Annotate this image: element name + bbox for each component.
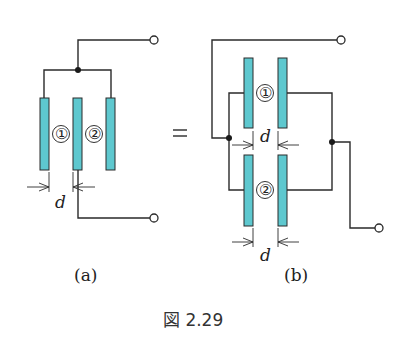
panel-b-right-junction-dot bbox=[329, 139, 335, 145]
panel-b-bottom-terminal bbox=[375, 224, 383, 232]
panel-a-bus-wire bbox=[44, 70, 111, 98]
panel-b-dimension-label-middle: d bbox=[260, 126, 271, 146]
panel-b-cap2-right-plate bbox=[278, 155, 287, 226]
panel-a-dimension-d bbox=[27, 172, 95, 192]
panel-b-cap1-left-plate bbox=[244, 58, 253, 128]
circuit-diagram bbox=[0, 0, 404, 348]
panel-b-label: (b) bbox=[284, 265, 308, 285]
panel-b-circuit bbox=[212, 36, 383, 247]
panel-a-bottom-wire bbox=[78, 170, 151, 218]
panel-a-capacitor-2-label: ② bbox=[85, 125, 103, 143]
panel-a-left-plate bbox=[40, 98, 49, 170]
panel-a-bottom-terminal bbox=[150, 214, 158, 222]
panel-b-left-junction-dot bbox=[226, 135, 232, 141]
panel-b-cap1-right-plate bbox=[278, 58, 287, 128]
panel-b-top-wire bbox=[212, 40, 338, 138]
panel-a-junction-dot bbox=[75, 67, 81, 73]
panel-b-bottom-wire bbox=[332, 142, 376, 228]
panel-a-capacitor-1-label: ① bbox=[52, 125, 70, 143]
panel-b-dimension-label-bottom: d bbox=[260, 245, 271, 265]
panel-a-top-terminal bbox=[150, 36, 158, 44]
panel-b-capacitor-1-label: ① bbox=[256, 84, 274, 102]
panel-b-capacitor-2-label: ② bbox=[256, 181, 274, 199]
panel-b-left-bus bbox=[229, 93, 244, 190]
panel-a-top-wire bbox=[78, 40, 151, 70]
panel-a-middle-plate bbox=[73, 98, 82, 170]
panel-b-top-terminal bbox=[337, 36, 345, 44]
panel-a-right-plate bbox=[106, 98, 115, 170]
panel-b-right-bus bbox=[287, 93, 332, 190]
panel-a-label: (a) bbox=[74, 265, 97, 285]
figure-caption: 図 2.29 bbox=[163, 306, 223, 331]
panel-a-dimension-label: d bbox=[55, 192, 66, 212]
equals-sign bbox=[173, 130, 187, 136]
panel-b-cap2-left-plate bbox=[244, 155, 253, 226]
